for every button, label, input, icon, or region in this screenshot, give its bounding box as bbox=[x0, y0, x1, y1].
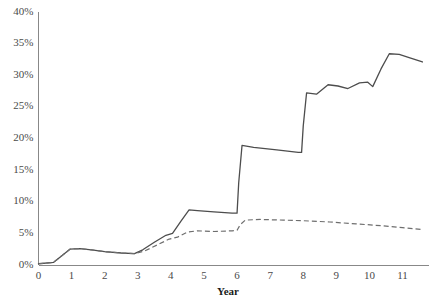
x-tick-label: 2 bbox=[102, 269, 108, 281]
x-tick-label: 5 bbox=[201, 269, 207, 281]
x-tick-label: 8 bbox=[300, 269, 306, 281]
x-tick-label: 11 bbox=[397, 269, 408, 281]
x-tick-label: 9 bbox=[334, 269, 340, 281]
x-tick-label: 6 bbox=[234, 269, 240, 281]
chart-container: 0%5%10%15%20%25%30%35%40% 01234567891011… bbox=[0, 0, 434, 306]
y-tick-label: 20% bbox=[13, 131, 33, 143]
x-tick-label: 4 bbox=[168, 269, 174, 281]
y-tick-label: 10% bbox=[13, 194, 33, 206]
x-tick-label: 7 bbox=[267, 269, 273, 281]
y-tick-label: 25% bbox=[13, 99, 33, 111]
y-axis-tick-labels: 0%5%10%15%20%25%30%35%40% bbox=[13, 5, 33, 270]
x-tick-label: 3 bbox=[135, 269, 141, 281]
x-axis-title: Year bbox=[217, 285, 239, 297]
y-tick-label: 40% bbox=[13, 5, 33, 17]
y-tick-label: 30% bbox=[13, 68, 33, 80]
x-tick-label: 1 bbox=[69, 269, 75, 281]
x-axis-tick-labels: 01234567891011 bbox=[36, 269, 408, 281]
y-tick-label: 35% bbox=[13, 36, 33, 48]
y-tick-label: 5% bbox=[19, 226, 34, 238]
y-tick-label: 15% bbox=[13, 163, 33, 175]
series-dashed-line bbox=[39, 219, 423, 263]
x-tick-label: 0 bbox=[36, 269, 42, 281]
line-chart-svg: 0%5%10%15%20%25%30%35%40% 01234567891011… bbox=[0, 0, 434, 306]
x-tick-label: 10 bbox=[364, 269, 376, 281]
series-solid-line bbox=[39, 54, 423, 264]
y-tick-label: 0% bbox=[19, 258, 34, 270]
